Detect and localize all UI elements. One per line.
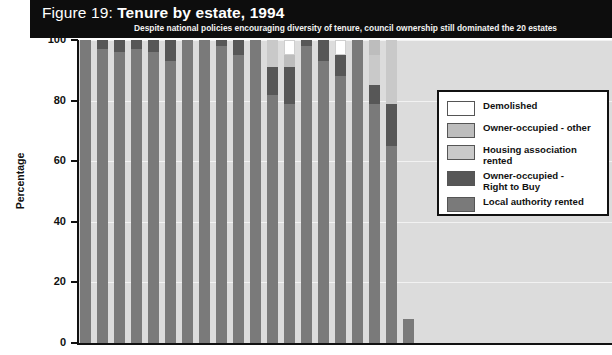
y-tick-mark — [71, 342, 78, 344]
bar-segment — [114, 40, 125, 52]
bar — [199, 40, 210, 343]
bar-segment — [233, 55, 244, 343]
x-axis-line — [77, 343, 612, 345]
bar-segment — [318, 61, 329, 343]
bar-segment — [301, 46, 312, 343]
y-tick-mark — [71, 39, 78, 41]
legend: DemolishedOwner-occupied - otherHousing … — [437, 90, 609, 216]
bar-segment — [369, 40, 380, 55]
bar — [335, 40, 346, 343]
bar — [369, 40, 380, 343]
y-tick-label: 60 — [26, 154, 66, 166]
bar — [97, 40, 108, 343]
legend-label: Housing association rented — [483, 144, 577, 166]
bar-segment — [386, 40, 397, 104]
legend-item: Owner-occupied - other — [447, 122, 591, 138]
figure-subtitle: Despite national policies encouraging di… — [134, 23, 557, 33]
bar-segment — [199, 40, 210, 343]
bar — [318, 40, 329, 343]
bar-segment — [386, 104, 397, 146]
bar-segment — [131, 49, 142, 343]
legend-swatch — [447, 123, 475, 138]
bar-segment — [369, 55, 380, 85]
y-tick-label: 100 — [26, 33, 66, 45]
legend-swatch — [447, 171, 475, 186]
bar-segment — [216, 46, 227, 343]
bar — [148, 40, 159, 343]
bar-segment — [267, 67, 278, 94]
legend-label: Demolished — [483, 100, 537, 111]
title-band: Figure 19: Tenure by estate, 1994 Despit… — [30, 0, 612, 38]
bar-segment — [284, 40, 295, 55]
bar-segment — [284, 55, 295, 67]
bar-segment — [233, 40, 244, 55]
bar — [165, 40, 176, 343]
legend-swatch — [447, 145, 475, 160]
bar-segment — [369, 104, 380, 343]
legend-label: Owner-occupied - Right to Buy — [483, 170, 564, 192]
bar-segment — [114, 52, 125, 343]
bar-segment — [335, 55, 346, 76]
legend-item: Housing association rented — [447, 144, 577, 166]
bar-segment — [369, 85, 380, 103]
page-title: Figure 19: Tenure by estate, 1994 — [42, 4, 285, 22]
bars-layer — [79, 40, 418, 343]
bar — [114, 40, 125, 343]
bar — [233, 40, 244, 343]
bar — [131, 40, 142, 343]
y-tick-mark — [71, 100, 78, 102]
bar-segment — [165, 61, 176, 343]
bar — [80, 40, 91, 343]
bar — [386, 40, 397, 343]
bar-segment — [335, 40, 346, 55]
bottom-caption — [85, 349, 565, 355]
y-tick-label: 80 — [26, 94, 66, 106]
y-axis-title: Percentage — [14, 131, 26, 231]
bar-segment — [318, 40, 329, 61]
bar — [216, 40, 227, 343]
legend-swatch — [447, 101, 475, 116]
bar-segment — [182, 40, 193, 343]
bar-segment — [335, 76, 346, 343]
legend-label: Local authority rented — [483, 196, 584, 207]
y-tick-mark — [71, 281, 78, 283]
bar — [301, 40, 312, 343]
bar — [352, 40, 363, 343]
bar — [182, 40, 193, 343]
legend-swatch — [447, 197, 475, 212]
bar-segment — [386, 146, 397, 343]
bar — [267, 40, 278, 343]
y-tick-label: 40 — [26, 215, 66, 227]
bar-segment — [148, 52, 159, 343]
y-tick-label: 0 — [26, 336, 66, 348]
bar-segment — [165, 40, 176, 61]
y-tick-mark — [71, 221, 78, 223]
legend-item: Owner-occupied - Right to Buy — [447, 170, 564, 192]
bar — [250, 40, 261, 343]
bar-segment — [148, 40, 159, 52]
bar-segment — [131, 40, 142, 49]
legend-label: Owner-occupied - other — [483, 122, 591, 133]
figure-title: Tenure by estate, 1994 — [117, 4, 284, 21]
legend-item: Demolished — [447, 100, 537, 116]
bar-segment — [216, 40, 227, 46]
legend-item: Local authority rented — [447, 196, 584, 212]
y-tick-label: 20 — [26, 275, 66, 287]
bar — [403, 319, 414, 343]
figure-root: Figure 19: Tenure by estate, 1994 Despit… — [0, 0, 612, 355]
bar-segment — [250, 40, 261, 343]
bar-segment — [267, 40, 278, 67]
bar-segment — [301, 40, 312, 46]
bar-segment — [97, 49, 108, 343]
bar-segment — [97, 40, 108, 49]
bar — [284, 40, 295, 343]
bar-segment — [352, 40, 363, 343]
figure-number: Figure 19: — [42, 4, 117, 21]
bar-segment — [267, 95, 278, 343]
y-tick-mark — [71, 160, 78, 162]
bar-segment — [284, 67, 295, 103]
bar-segment — [80, 40, 91, 343]
bar-segment — [403, 319, 414, 343]
bar-segment — [284, 104, 295, 343]
